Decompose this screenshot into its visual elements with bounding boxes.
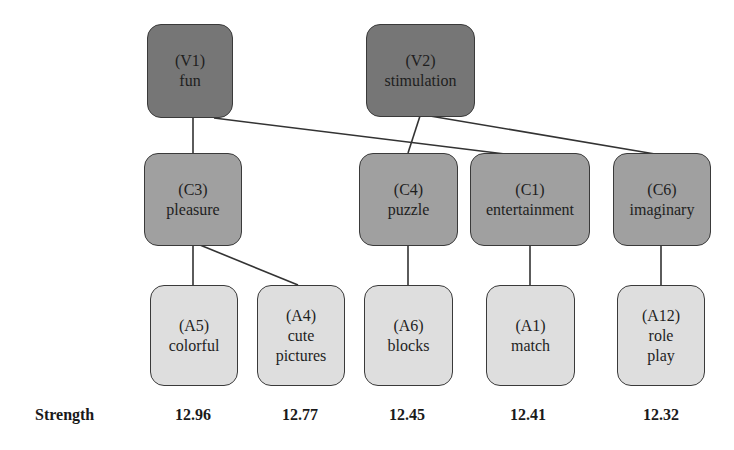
node-a1-match: (A1) match (486, 285, 575, 386)
node-c3-pleasure: (C3) pleasure (144, 153, 242, 246)
strength-value-a6: 12.45 (367, 405, 447, 425)
node-label: role (649, 326, 674, 346)
strength-value-a1: 12.41 (488, 405, 568, 425)
node-label: pleasure (166, 200, 219, 220)
strength-value-a5: 12.96 (153, 405, 233, 425)
edge-v1-c1 (214, 118, 505, 154)
node-code: (A6) (393, 316, 423, 336)
node-code: (A1) (515, 316, 545, 336)
node-code: (C1) (515, 180, 544, 200)
node-a4-cute-pictures: (A4) cute pictures (257, 285, 345, 386)
strength-value-a4: 12.77 (260, 405, 340, 425)
node-code: (C3) (178, 180, 207, 200)
strength-label: Strength (35, 405, 94, 425)
node-c4-puzzle: (C4) puzzle (359, 153, 458, 246)
node-code: (C4) (394, 180, 423, 200)
node-code: (A12) (642, 306, 680, 326)
node-code: (A5) (179, 316, 209, 336)
node-c6-imaginary: (C6) imaginary (613, 153, 711, 246)
node-label: entertainment (486, 200, 574, 220)
node-label: stimulation (385, 71, 457, 91)
strength-value-a12: 12.32 (621, 405, 701, 425)
node-label: match (511, 336, 550, 356)
node-code: (C6) (647, 180, 676, 200)
means-end-diagram: (V1) fun (V2) stimulation (C3) pleasure … (0, 0, 734, 450)
node-label: fun (179, 71, 200, 91)
node-label: colorful (169, 336, 220, 356)
node-label: imaginary (630, 200, 695, 220)
node-code: (A4) (286, 306, 316, 326)
node-a5-colorful: (A5) colorful (150, 285, 238, 386)
node-label: puzzle (388, 200, 430, 220)
node-a6-blocks: (A6) blocks (364, 285, 453, 386)
node-label: play (647, 346, 675, 366)
node-label: cute (288, 326, 315, 346)
node-code: (V1) (175, 51, 205, 71)
node-label: blocks (388, 336, 430, 356)
node-code: (V2) (405, 51, 435, 71)
edge-v2-c4 (408, 116, 420, 153)
node-label: pictures (276, 346, 327, 366)
node-v1-fun: (V1) fun (147, 24, 233, 118)
node-c1-entertainment: (C1) entertainment (470, 153, 590, 246)
node-a12-role-play: (A12) role play (617, 285, 705, 386)
node-v2-stimulation: (V2) stimulation (366, 24, 475, 117)
edge-c3-a4 (200, 245, 298, 285)
